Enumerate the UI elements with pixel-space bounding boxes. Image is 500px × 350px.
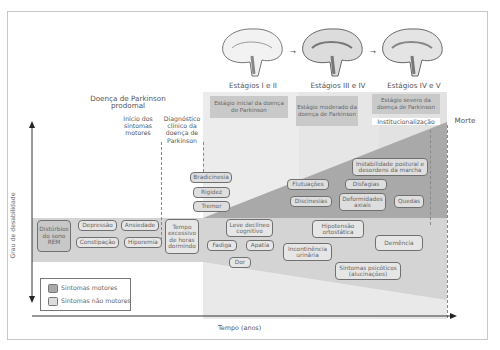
symptom-tremor: Tremor [193,201,230,212]
symptom-depressao: Depressão [78,220,117,231]
symptom-tempo-excessivo-dormindo: Tempo excessivo de horas dormindo [165,219,199,254]
symptom-apatia: Apatia [246,240,274,251]
legend-swatch-non-motor [48,297,58,306]
symptom-disfagias: Disfagias [345,179,387,190]
symptom-deformidades-axiais: Deformidades axiais [339,193,386,211]
y-axis-label: Grau de desabilidade [9,186,16,266]
legend-label-motor: Sintomas motores [61,284,117,291]
symptom-demencia: Demência [375,235,423,251]
symptom-bradicinesia: Bradicinesia [190,172,232,183]
symptom-hipotensao-ortostatica: Hipotensão ortostática [312,220,364,238]
symptom-instabilidade-postural: Instabilidade postural e desordens da ma… [352,158,428,176]
x-axis-label: Tempo (anos) [218,324,261,332]
y-axis-arrow-down-icon [29,296,35,303]
legend-swatch-motor [48,284,58,293]
symptom-flutuacoes: Flutuações [287,179,329,190]
symptom-discinesias: Discinesias [290,196,332,207]
symptom-leve-declineo-cognitivo: Leve declíneo cognitivo [226,219,273,237]
symptom-dor: Dor [229,257,251,268]
symptom-ansiedade: Ansiedade [121,220,159,231]
legend-label-non-motor: Sintomas não motores [61,297,131,304]
y-axis-arrow-up-icon [29,121,35,128]
symptom-fadiga: Fadiga [207,240,237,251]
legend: Sintomas motores Sintomas não motores [40,278,131,311]
symptom-sintomas-psicoticos: Sintomas psicóticos (alucinações) [335,262,401,280]
symptom-quedas: Quedas [394,195,424,208]
symptom-hiporemia: Hiporemia [124,237,162,248]
symptom-disturbios-sono-rem: Distúrbios do sono REM [37,220,71,252]
symptom-rigidez: Rigidez [193,187,230,198]
symptom-incontinencia-urinaria: Incontinência urinária [283,243,332,261]
symptom-constipacao: Constipação [76,237,119,248]
x-axis-arrow-icon [450,313,457,319]
